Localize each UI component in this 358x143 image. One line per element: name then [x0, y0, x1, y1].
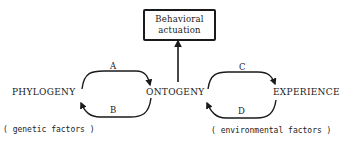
edge-label-d: D — [238, 106, 245, 116]
diagram-canvas: Behavioral actuation PHYLOGENY ONTOGENY … — [0, 0, 358, 143]
arrow-a — [82, 71, 150, 89]
edge-label-c: C — [239, 62, 246, 72]
node-experience: EXPERIENCE — [273, 87, 340, 97]
node-ontogeny: ONTOGENY — [146, 87, 205, 97]
behavioral-actuation-box: Behavioral actuation — [143, 9, 216, 41]
note-genetic-factors: ( genetic factors ) — [3, 125, 95, 134]
node-phylogeny: PHYLOGENY — [12, 87, 75, 97]
box-line-1: Behavioral — [155, 14, 203, 25]
edge-label-b: B — [110, 105, 116, 115]
arrow-c — [208, 72, 275, 89]
edge-label-a: A — [110, 61, 116, 71]
note-environmental-factors: ( environmental factors ) — [211, 126, 331, 135]
box-line-2: actuation — [158, 25, 200, 36]
